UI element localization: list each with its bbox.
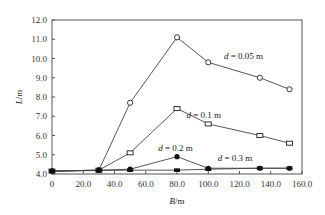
y-tick-label: 12.0: [31, 15, 47, 25]
open-square-marker: [257, 134, 263, 138]
x-tick-label: 120.0: [229, 179, 250, 189]
series-line: [52, 168, 290, 171]
open-square-marker: [287, 141, 293, 145]
filled-square-marker: [174, 168, 180, 172]
x-axis-label: B/m: [169, 196, 184, 206]
filled-square-marker: [205, 167, 211, 171]
line-chart: 4.05.06.07.08.09.010.011.012.0020.040.06…: [0, 0, 325, 215]
filled-square-marker: [96, 169, 102, 173]
series-line: [52, 109, 290, 172]
series-line: [52, 157, 290, 171]
series-annotation: d = 0.05 m: [224, 51, 263, 61]
y-tick-label: 9.0: [36, 73, 48, 83]
series-annotation: d = 0.3 m: [218, 153, 253, 163]
x-tick-label: 160.0: [292, 179, 313, 189]
open-circle-marker: [206, 60, 211, 65]
x-tick-label: 20.0: [75, 179, 91, 189]
open-circle-marker: [287, 87, 292, 92]
y-tick-label: 6.0: [36, 131, 48, 141]
y-tick-label: 7.0: [36, 111, 48, 121]
y-tick-label: 8.0: [36, 92, 48, 102]
open-square-marker: [127, 151, 133, 155]
y-tick-label: 5.0: [36, 150, 48, 160]
x-tick-label: 80.0: [169, 179, 185, 189]
x-tick-label: 0: [50, 179, 55, 189]
series-annotation: d = 0.2 m: [158, 143, 193, 153]
y-axis-label: L/m: [14, 90, 24, 106]
x-tick-label: 100.0: [198, 179, 219, 189]
filled-square-marker: [127, 168, 133, 172]
x-tick-label: 40.0: [107, 179, 123, 189]
open-square-marker: [205, 122, 211, 126]
x-tick-label: 140.0: [261, 179, 282, 189]
open-circle-marker: [128, 100, 133, 105]
series-annotation: d = 0.1 m: [186, 110, 221, 120]
y-tick-label: 4.0: [36, 169, 48, 179]
y-tick-label: 11.0: [32, 34, 48, 44]
open-square-marker: [174, 107, 180, 111]
open-circle-marker: [174, 35, 179, 40]
filled-square-marker: [49, 169, 55, 173]
x-tick-label: 60.0: [138, 179, 154, 189]
open-circle-marker: [257, 75, 262, 80]
filled-square-marker: [287, 166, 293, 170]
filled-circle-marker: [174, 154, 179, 159]
y-tick-label: 10.0: [31, 54, 47, 64]
filled-square-marker: [257, 166, 263, 170]
